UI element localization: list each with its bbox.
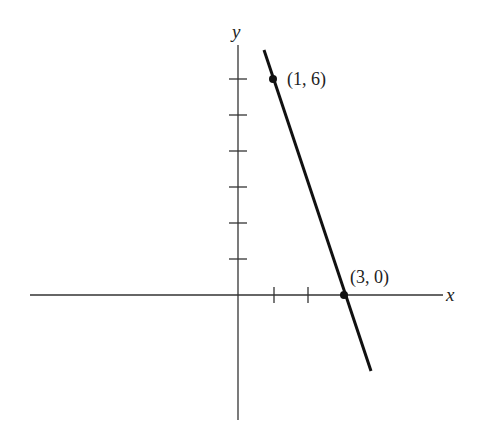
data-line — [264, 50, 371, 371]
line-graph: (1, 6) (3, 0) x y — [0, 0, 483, 440]
point-3-0-label: (3, 0) — [350, 267, 389, 288]
point-1-6-label: (1, 6) — [287, 69, 326, 90]
y-axis-label: y — [230, 21, 241, 42]
point-1-6 — [269, 75, 277, 83]
point-3-0 — [340, 291, 348, 299]
x-axis-label: x — [445, 284, 455, 305]
